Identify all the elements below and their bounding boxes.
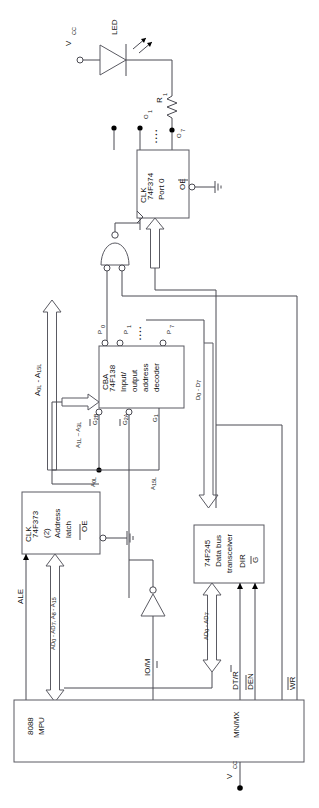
signal-label-dtr: DT/R [231,671,240,690]
resistor-sub: 1 [162,93,168,96]
vcc-top-sub: CC [71,27,77,35]
signal-label-a15l: A15L [150,477,157,490]
resistor-label: R [155,97,164,103]
mux-data-tie [64,672,212,688]
decoder-outputs [102,340,166,346]
bus-label-a1l-a3l: A1L – A3L [75,422,82,448]
decoder-p1-label: P [123,330,129,334]
inverter-gate [141,560,165,700]
nand-input-bubble-a [104,265,110,271]
decoder-p0-pin [102,340,108,346]
output-o1-label: O [143,114,149,119]
right-side-rails [216,296,297,700]
decoder-p7-pin [160,340,166,346]
transceiver-dir-label: DIR [238,554,247,568]
output-node-o1 [137,125,142,130]
bus-arrow-data-to-port374 [146,218,164,268]
vcc-bottom-label: V [225,773,234,779]
vcc-top-terminal [77,57,100,63]
signal-label-a0l: A0L [90,477,97,487]
ic-74f245-part: 74F245 [203,539,212,567]
decoder-g2b-label: G2B [92,413,99,425]
bus-label-d0-d7: D0 - D7 [195,380,202,400]
latch373-oe-label: OE [80,520,89,532]
decoder-cba-label: CBA [101,373,110,390]
output-o7-label: O [176,133,182,138]
signal-label-ale: ALE [16,589,25,604]
ic-74f373-qty: (2) [42,528,51,538]
signal-label-den: DEN [246,673,255,690]
nand-input-bubble-b [119,265,125,271]
nand-output-bubble [112,232,118,238]
decoder-p0-label: P [97,330,103,334]
nand-gate [101,223,297,343]
mpu-part: 8088 [26,717,35,735]
output-o1-sub: 1 [147,110,153,113]
ic-74f373-line3: Address [53,509,62,538]
vcc-top-label: V [64,40,73,46]
circuit-diagram: V CC LED R 1 O 1 O 7 • • • • 74F374 Port… [0,0,319,808]
led-symbol [100,38,172,76]
decoder-output-ellipsis: • • • • [137,327,143,340]
ic-74f245-line3: transceiver [225,534,234,573]
transceiver-g-label: G [251,557,260,563]
latch373-clk-pin [23,554,29,700]
decoder-p7-label: P [166,330,172,334]
ic-74f138-line4: address [141,364,150,392]
ic-74f138-line3: output [130,369,139,392]
bus-arrow-decoder-select [62,394,99,410]
vcc-bottom-sub: CC [232,761,238,769]
output-node-o7 [169,127,174,132]
output-o7-sub: 7 [180,129,186,132]
ic-74f138-line2: Input/ [119,371,128,392]
output-ellipsis: • • • • [153,130,159,143]
bus-label-a0l-a15l: A0L - A15L [33,364,42,396]
output-node-o0 [111,125,116,130]
inverter-bubble [150,587,156,593]
resistor-r1 [167,60,177,130]
mpu-mnmx-label: MN/MX [232,711,241,738]
ic-74f138-line5: decoder [152,363,161,392]
bus-arrow-data [199,343,218,508]
decoder-g1-label: G1 [152,414,159,422]
port374-oe-pin [189,181,221,193]
schematic-canvas: V CC LED R 1 O 1 O 7 • • • • 74F374 Port… [0,0,319,808]
signal-label-iom: IO/M [143,658,152,676]
decoder-g2a-label: G2A [122,413,129,425]
decoder-p1-pin [117,340,123,346]
decoder-enable-pins [96,408,159,598]
decoder-p7-sub: 7 [169,325,175,328]
decoder-p1-sub: 1 [126,325,132,328]
latch373-oe-pin [100,531,133,545]
ic-74f374-name: Port 0 [157,178,166,200]
latch373-clk-label: CLK [24,526,33,542]
mpu-line2: MPU [37,717,46,735]
ic-74f373-line4: latch [64,521,73,538]
signal-label-wr: WR [288,676,297,690]
led-label: LED [110,19,119,35]
ic-8088-mpu [14,700,304,762]
decoder-p0-sub: 0 [100,325,106,328]
ic-74f245-line2: Data bus [214,535,223,567]
port374-clk-label: CLK [139,187,148,203]
port-output-lines [111,125,174,150]
